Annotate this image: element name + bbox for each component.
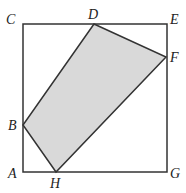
label-h: H — [49, 176, 61, 191]
label-c: C — [6, 12, 16, 27]
label-b: B — [8, 118, 17, 133]
label-g: G — [170, 166, 180, 181]
label-e: E — [169, 12, 179, 27]
shaded-quadrilateral — [23, 24, 166, 172]
label-f: F — [169, 50, 179, 65]
geometry-diagram: C D E F B A H G — [0, 0, 186, 193]
label-d: D — [87, 7, 98, 22]
label-a: A — [7, 166, 17, 181]
